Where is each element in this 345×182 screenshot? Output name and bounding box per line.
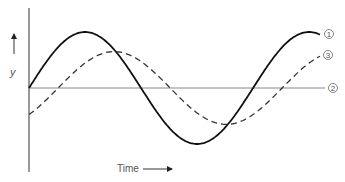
series-2-label: 2 xyxy=(329,84,338,94)
y-axis-label: y xyxy=(9,66,17,78)
svg-text:1: 1 xyxy=(327,30,332,39)
wave-diagram: y 1 3 2 Time xyxy=(0,0,345,182)
series-1-label: 1 xyxy=(325,30,334,40)
time-axis-label: Time xyxy=(117,163,139,174)
series-3-label: 3 xyxy=(324,51,333,61)
svg-text:3: 3 xyxy=(326,51,331,60)
svg-text:2: 2 xyxy=(331,84,336,93)
